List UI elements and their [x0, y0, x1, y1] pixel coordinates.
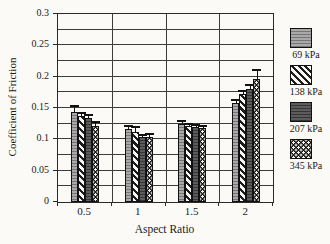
- bar-207-kPa-ar-1.5: [192, 127, 199, 202]
- legend-item-207-kPa: 207 kPa: [283, 102, 329, 134]
- legend-label: 138 kPa: [283, 86, 329, 97]
- bar-138-kPa-ar-1.5: [185, 126, 192, 202]
- y-tick-mark: [53, 138, 57, 139]
- legend-swatch-black-diagonal-stripes-on-white: [290, 65, 312, 85]
- legend-item-345-kPa: 345 kPa: [283, 139, 329, 171]
- error-bar-cap: [145, 133, 154, 135]
- error-bar-cap: [131, 126, 140, 128]
- vertical-gridline: [219, 14, 220, 202]
- legend-swatch-dark-gray-horizontal-lines: [290, 102, 312, 122]
- y-tick-label: 0.25: [9, 39, 49, 49]
- legend-label: 69 kPa: [283, 49, 329, 60]
- y-tick-mark: [53, 76, 57, 77]
- x-tick-mark: [57, 202, 58, 206]
- friction-bar-chart-figure: Coefficient of Friction 00.050.10.150.20…: [0, 0, 330, 244]
- y-tick-mark: [53, 170, 57, 171]
- vertical-gridline: [166, 14, 167, 202]
- y-tick-mark: [53, 44, 57, 45]
- y-tick-label: 0: [9, 196, 49, 206]
- bar-69-kPa-ar-1: [125, 129, 132, 202]
- bar-138-kPa-ar-1: [132, 132, 139, 202]
- y-tick-label: 0.15: [9, 102, 49, 112]
- bar-207-kPa-ar-0.5: [85, 118, 92, 202]
- bar-345-kPa-ar-0.5: [92, 126, 99, 202]
- legend-label: 345 kPa: [283, 160, 329, 171]
- bar-69-kPa-ar-1.5: [178, 124, 185, 202]
- bar-345-kPa-ar-1.5: [199, 128, 206, 202]
- vertical-gridline: [112, 14, 113, 202]
- x-axis-title: Aspect Ratio: [57, 223, 272, 235]
- y-tick-label: 0.2: [9, 71, 49, 81]
- legend-label: 207 kPa: [283, 123, 329, 134]
- y-tick-label: 0.05: [9, 165, 49, 175]
- legend: 69 kPa138 kPa207 kPa345 kPa: [283, 28, 329, 176]
- y-tick-label: 0.3: [9, 8, 49, 18]
- error-bar-cap: [91, 121, 100, 123]
- x-tick-mark: [111, 202, 112, 206]
- legend-swatch-gray-horizontal-lines: [290, 28, 312, 48]
- bar-207-kPa-ar-2: [246, 89, 253, 202]
- y-tick-mark: [53, 107, 57, 108]
- bar-69-kPa-ar-0.5: [71, 112, 78, 202]
- legend-swatch-white-dots-on-black: [290, 139, 312, 159]
- plot-area: [57, 13, 274, 203]
- error-bar-stem: [257, 70, 258, 79]
- bar-138-kPa-ar-2: [239, 94, 246, 202]
- error-bar-cap: [198, 125, 207, 127]
- legend-item-138-kPa: 138 kPa: [283, 65, 329, 97]
- x-tick-label: 2: [218, 205, 272, 217]
- y-tick-label: 0.1: [9, 133, 49, 143]
- error-bar-cap: [252, 69, 261, 71]
- bar-345-kPa-ar-2: [253, 79, 260, 202]
- x-tick-mark: [218, 202, 219, 206]
- bar-138-kPa-ar-0.5: [78, 116, 85, 202]
- error-bar-cap: [70, 105, 79, 107]
- bar-207-kPa-ar-1: [139, 137, 146, 202]
- y-tick-mark: [53, 13, 57, 14]
- x-tick-mark: [165, 202, 166, 206]
- x-tick-mark: [272, 202, 273, 206]
- x-tick-label: 1.5: [165, 205, 219, 217]
- error-bar-cap: [84, 114, 93, 116]
- x-tick-label: 1: [111, 205, 165, 217]
- x-tick-label: 0.5: [57, 205, 111, 217]
- bar-69-kPa-ar-2: [232, 103, 239, 202]
- error-bar-cap: [177, 120, 186, 122]
- bar-345-kPa-ar-1: [146, 137, 153, 202]
- legend-item-69-kPa: 69 kPa: [283, 28, 329, 60]
